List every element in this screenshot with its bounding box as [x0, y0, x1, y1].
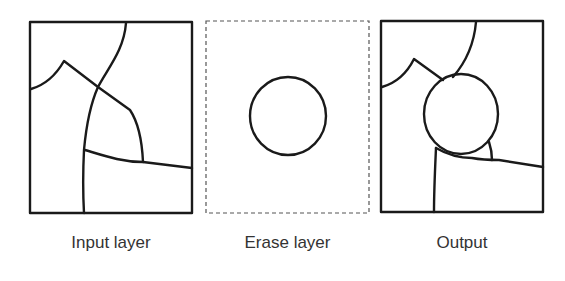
output-frame [381, 21, 543, 212]
input-layer-panel [30, 22, 192, 213]
output-erase-circle [424, 74, 498, 154]
output-label: Output [381, 233, 543, 253]
output-polygon-boundary [434, 148, 436, 212]
input-polygon-boundary [83, 23, 126, 213]
input-polygon-boundary [31, 61, 143, 162]
erase-circle [250, 77, 326, 155]
output-panel [381, 21, 543, 212]
output-polygon-boundary [489, 142, 492, 160]
erase-layer-frame [206, 21, 369, 213]
input-polygon-boundary [85, 150, 192, 168]
output-polygon-boundary [436, 148, 543, 167]
output-polygon-boundary [453, 22, 476, 77]
input-layer-label: Input layer [30, 233, 192, 253]
input-layer-frame [30, 22, 192, 213]
erase-layer-label: Erase layer [206, 233, 369, 253]
output-polygon-boundary [382, 59, 443, 87]
erase-layer-panel [206, 21, 369, 213]
